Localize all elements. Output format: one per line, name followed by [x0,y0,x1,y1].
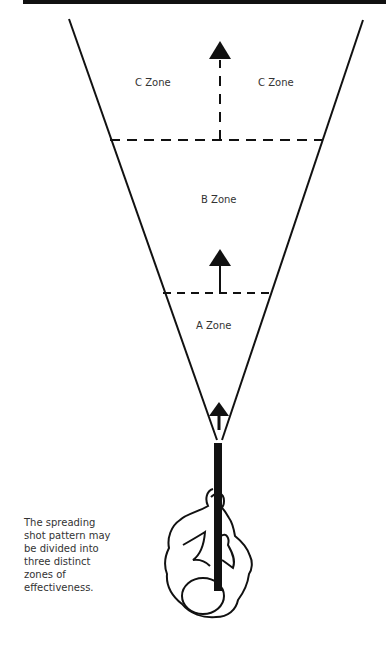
b-zone-label: B Zone [201,194,237,205]
shooter-arm-fold [183,532,210,566]
c-zone-label-left: C Zone [135,77,171,88]
c-zone-label-right: C Zone [258,77,294,88]
caption-line: three distinct [24,555,164,568]
caption-line: shot pattern may [24,529,164,542]
caption-line: effectiveness. [24,581,164,594]
shooter-rear-hand [221,535,234,568]
caption-line: be divided into [24,542,164,555]
caption: The spreading shot pattern may be divide… [24,516,164,594]
c-zone-arrow-icon [209,41,231,140]
shooter-figure [165,489,252,617]
caption-line: The spreading [24,516,164,529]
shooter-body-outline [165,489,252,617]
b-zone-arrow-icon [209,249,231,293]
gun-barrel [214,443,222,591]
a-zone-label: A Zone [196,320,231,331]
caption-line: zones of [24,568,164,581]
